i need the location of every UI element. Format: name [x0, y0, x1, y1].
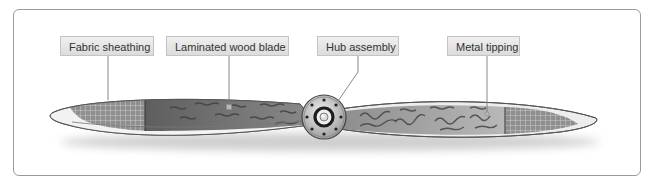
marker-laminated-wood: [227, 105, 232, 110]
label-hub-assembly: Hub assembly: [317, 36, 399, 56]
label-laminated-wood-blade: Laminated wood blade: [166, 36, 289, 56]
left-blade: [50, 97, 316, 139]
propeller-illustration: [0, 0, 651, 185]
hub-assembly-graphic: [302, 95, 346, 139]
label-fabric-sheathing: Fabric sheathing: [60, 36, 154, 56]
label-metal-tipping: Metal tipping: [447, 36, 520, 56]
marker-metal-tipping: [485, 112, 489, 116]
leader-hub-assembly: [338, 56, 358, 101]
right-blade: [334, 102, 597, 138]
